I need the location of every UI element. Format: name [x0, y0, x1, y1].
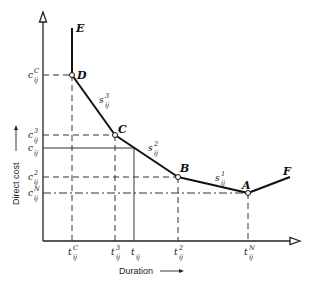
xtick-t2: t 2 ij — [174, 244, 183, 261]
svg-text:1: 1 — [221, 170, 225, 178]
label-B: B — [179, 162, 189, 175]
label-D: D — [76, 69, 87, 82]
svg-text:t: t — [174, 247, 178, 257]
ytick-cN: c N ij — [28, 185, 40, 202]
svg-text:N: N — [33, 185, 40, 193]
svg-text:ij: ij — [249, 253, 253, 261]
svg-text:2: 2 — [178, 244, 183, 252]
point-B — [176, 175, 181, 180]
svg-text:ij: ij — [34, 76, 38, 84]
svg-text:c: c — [28, 188, 33, 198]
ylabel-text: Direct cost — [11, 162, 21, 205]
xtick-tC: t C ij — [68, 244, 78, 261]
svg-text:s: s — [148, 143, 153, 153]
ytick-cC: c C ij — [28, 67, 39, 84]
label-C: C — [118, 123, 127, 136]
svg-text:C: C — [34, 67, 39, 75]
axes — [40, 12, 301, 245]
svg-text:ij: ij — [105, 101, 109, 109]
svg-text:c: c — [28, 130, 33, 140]
cost-duration-diagram: E D C B A F s 3 ij s 2 ij s 1 ij c C ij — [0, 0, 309, 281]
xtick-tij: t ij — [131, 247, 140, 261]
svg-text:c: c — [28, 70, 33, 80]
svg-text:ij: ij — [73, 253, 77, 261]
svg-text:3: 3 — [34, 127, 38, 135]
svg-text:3: 3 — [105, 92, 109, 100]
svg-text:ij: ij — [221, 179, 225, 187]
segment-A-F — [248, 177, 290, 193]
svg-text:s: s — [215, 173, 220, 183]
svg-text:ij: ij — [116, 253, 120, 261]
segment-C-B — [115, 135, 178, 177]
point-D — [70, 73, 75, 78]
svg-text:s: s — [99, 95, 104, 105]
y-axis-arrow-icon — [40, 12, 47, 22]
ytick-c3: c 3 ij — [28, 127, 38, 144]
svg-text:ij: ij — [136, 253, 140, 261]
xlabel-text: Duration — [119, 266, 153, 276]
svg-text:t: t — [111, 247, 115, 257]
svg-text:N: N — [248, 244, 255, 252]
slope-s1: s 1 ij — [215, 170, 225, 187]
svg-text:2: 2 — [153, 140, 158, 148]
svg-text:t: t — [68, 247, 72, 257]
svg-text:t: t — [244, 247, 248, 257]
ylabel: Direct cost — [11, 125, 21, 205]
svg-text:ij: ij — [34, 149, 38, 157]
point-C — [113, 133, 118, 138]
svg-text:3: 3 — [116, 244, 120, 252]
svg-text:ij: ij — [34, 136, 38, 144]
svg-text:2: 2 — [33, 169, 38, 177]
svg-text:t: t — [131, 247, 135, 257]
svg-text:ij: ij — [34, 194, 38, 202]
xtick-t3: t 3 ij — [111, 244, 120, 261]
guide-lines — [43, 75, 248, 241]
xlabel: Duration — [119, 266, 184, 276]
slope-s3: s 3 ij — [99, 92, 109, 109]
svg-text:ij: ij — [154, 149, 158, 157]
xtick-tN: t N ij — [244, 244, 255, 261]
ytick-cij: c ij — [28, 143, 38, 157]
segment-B-A — [178, 177, 248, 193]
label-F: F — [282, 165, 292, 178]
svg-text:C: C — [73, 244, 78, 252]
x-axis-arrow-icon — [290, 238, 300, 245]
slope-s2: s 2 ij — [148, 140, 158, 157]
label-E: E — [75, 22, 85, 35]
svg-text:ij: ij — [179, 253, 183, 261]
label-A: A — [241, 179, 251, 192]
svg-text:c: c — [28, 143, 33, 153]
ytick-c2: c 2 ij — [28, 169, 38, 186]
svg-text:c: c — [28, 172, 33, 182]
